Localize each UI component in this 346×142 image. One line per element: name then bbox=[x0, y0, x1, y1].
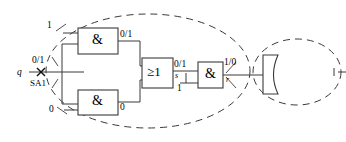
gate-and-right-output-label: 1/0 bbox=[224, 58, 236, 68]
input-label-q: q bbox=[17, 68, 22, 78]
gate-and-top-symbol: & bbox=[92, 33, 103, 47]
gate-and-top-input-label: 1 bbox=[47, 21, 52, 31]
input-fault-value-label: 0/1 bbox=[32, 56, 44, 66]
input-fault-type-label: SA1 bbox=[30, 79, 46, 88]
gate-or-symbol: ≥1 bbox=[147, 65, 161, 78]
net-label-s: s bbox=[175, 72, 178, 80]
gate-and-right-input-label: 1 bbox=[177, 84, 182, 94]
fault-tick-lower bbox=[52, 79, 58, 88]
memory-block bbox=[263, 55, 278, 94]
gate-and-bottom-output-label: 0 bbox=[120, 103, 125, 113]
gate-and-bottom-input-label: 0 bbox=[49, 105, 54, 115]
gate-and-top-output-label: 0/1 bbox=[120, 30, 132, 40]
net-label-r: r bbox=[226, 76, 229, 84]
gate-and-right-symbol: & bbox=[205, 67, 216, 81]
gate-and-bottom-symbol: & bbox=[92, 94, 103, 108]
and-top-input-1-tick bbox=[56, 24, 66, 31]
gate-or-output-label: 0/1 bbox=[174, 60, 186, 70]
fault-tick-upper bbox=[52, 57, 58, 66]
circuit-diagram: q 0/1 SA1 & 1 0/1 & 0 0 ≥1 0/1 s & 1 1/0… bbox=[0, 0, 346, 142]
